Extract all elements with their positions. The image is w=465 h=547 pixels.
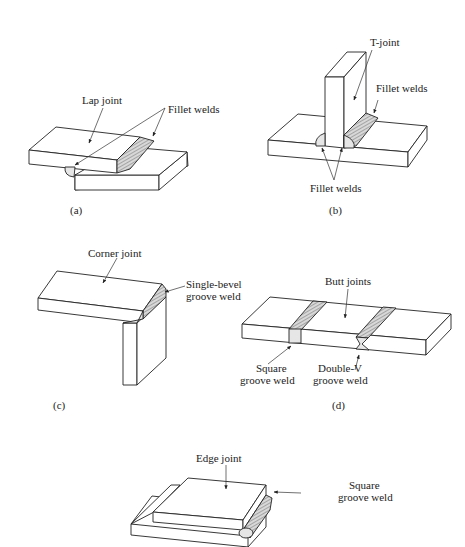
- vertical-plate-front: [123, 323, 137, 385]
- caption-d: (d): [332, 399, 345, 412]
- double-v-label-line1: Double-V: [318, 362, 362, 374]
- double-v-label-line2: groove weld: [313, 374, 368, 386]
- square-groove-weld-end: [289, 329, 301, 343]
- panel-e-edge-joint: Edge joint Square groove weld: [131, 452, 393, 547]
- single-bevel-label-line1: Single-bevel: [186, 278, 242, 290]
- caption-a: (a): [70, 204, 83, 217]
- lower-plate-front: [75, 175, 159, 190]
- butt-joints-label: Butt joints: [325, 275, 371, 287]
- fillet-weld-bottom: [65, 167, 75, 177]
- fillet-welds-label-b-top: Fillet welds: [376, 82, 428, 94]
- caption-c: (c): [53, 399, 66, 412]
- corner-joint-label: Corner joint: [88, 247, 141, 259]
- square-groove-e-label-line2: groove weld: [338, 491, 393, 503]
- vertical-plate-front: [325, 77, 344, 148]
- weld-joints-diagram: Lap joint Fillet welds (a) T-joint Fille…: [0, 0, 465, 547]
- edge-joint-label: Edge joint: [196, 452, 242, 464]
- square-groove-label-line1: Square: [256, 362, 287, 374]
- caption-b: (b): [329, 204, 342, 217]
- panel-d-butt-joints: Butt joints Square groove weld Double-V …: [240, 275, 451, 412]
- fillet-welds-label-b-bottom: Fillet welds: [310, 182, 362, 194]
- square-groove-label-line2: groove weld: [240, 374, 295, 386]
- single-bevel-label-line2: groove weld: [186, 290, 241, 302]
- panel-b-t-joint: T-joint Fillet welds Fillet welds (b): [268, 36, 428, 217]
- fillet-welds-label-a: Fillet welds: [168, 103, 220, 115]
- t-joint-label: T-joint: [370, 36, 400, 48]
- square-groove-weld-end: [239, 528, 253, 538]
- lap-joint-label: Lap joint: [82, 94, 122, 106]
- panel-a-lap-joint: Lap joint Fillet welds (a): [29, 94, 220, 217]
- panel-c-corner-joint: Corner joint Single-bevel groove weld (c…: [38, 247, 242, 412]
- square-groove-e-label-line1: Square: [349, 479, 380, 491]
